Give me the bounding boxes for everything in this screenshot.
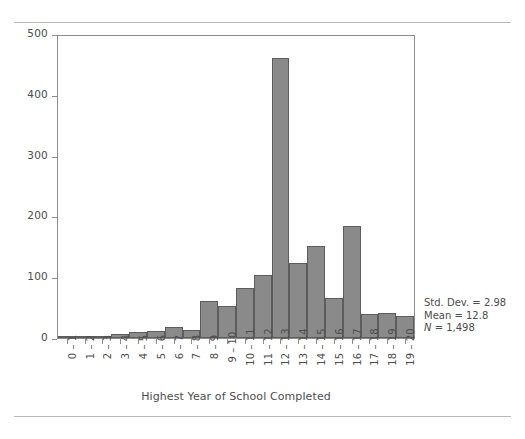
x-axis-title: Highest Year of School Completed bbox=[57, 390, 415, 403]
bar-slot bbox=[378, 36, 396, 338]
bar-slot bbox=[236, 36, 254, 338]
x-axis-tick-label: 19 – 20 bbox=[405, 328, 416, 366]
bar-slot bbox=[111, 36, 129, 338]
histogram-bar bbox=[289, 263, 307, 338]
histogram-bar bbox=[272, 58, 290, 338]
y-axis-tick-label: 400 bbox=[27, 88, 48, 100]
mean-text: Mean = 12.8 bbox=[424, 310, 506, 323]
bar-slot bbox=[343, 36, 361, 338]
y-axis-tick-label: 500 bbox=[27, 27, 48, 39]
bar-slot bbox=[200, 36, 218, 338]
y-axis: 0100200300400500 bbox=[0, 0, 57, 339]
statistics-annotation: Std. Dev. = 2.98 Mean = 12.8 N = 1,498 bbox=[424, 297, 506, 335]
histogram-bar bbox=[200, 301, 218, 338]
y-axis-tick-label: 200 bbox=[27, 209, 48, 221]
n-value: = 1,498 bbox=[431, 322, 474, 333]
bar-slot bbox=[129, 36, 147, 338]
bar-slot bbox=[307, 36, 325, 338]
y-axis-tick-label: 0 bbox=[41, 331, 48, 343]
bar-slot bbox=[396, 36, 414, 338]
bar-slot bbox=[254, 36, 272, 338]
bar-slot bbox=[165, 36, 183, 338]
y-axis-tick-label: 100 bbox=[27, 270, 48, 282]
bar-slot bbox=[76, 36, 94, 338]
y-axis-tick-label: 300 bbox=[27, 149, 48, 161]
bar-slot bbox=[58, 36, 76, 338]
sample-size-text: N = 1,498 bbox=[424, 322, 506, 335]
y-axis-tick-mark bbox=[52, 339, 57, 340]
bar-slot bbox=[361, 36, 379, 338]
bar-slot bbox=[325, 36, 343, 338]
bar-slot bbox=[272, 36, 290, 338]
histogram-bars bbox=[58, 36, 414, 338]
std-dev-text: Std. Dev. = 2.98 bbox=[424, 297, 506, 310]
bar-slot bbox=[289, 36, 307, 338]
bar-slot bbox=[94, 36, 112, 338]
top-divider-rule bbox=[14, 22, 511, 23]
histogram-bar bbox=[307, 246, 325, 338]
bar-slot bbox=[183, 36, 201, 338]
histogram-bar bbox=[343, 226, 361, 338]
bar-slot bbox=[147, 36, 165, 338]
bottom-divider-rule bbox=[14, 416, 511, 417]
bar-slot bbox=[218, 36, 236, 338]
